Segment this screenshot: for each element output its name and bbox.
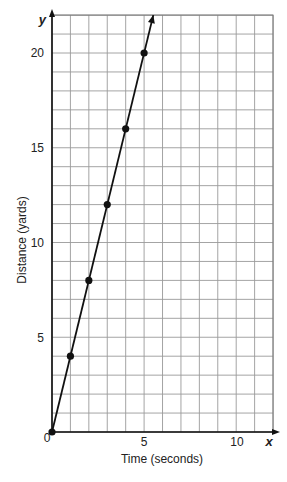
y-axis-label: Distance (yards)	[15, 196, 29, 283]
axes	[49, 9, 280, 435]
data-point	[104, 201, 111, 208]
data-point	[85, 277, 92, 284]
y-tick-20: 20	[31, 46, 45, 60]
x-axis-label: Time (seconds)	[121, 452, 203, 466]
data-point	[141, 49, 148, 56]
data-point	[122, 125, 129, 132]
y-axis-arrow-icon	[49, 9, 55, 17]
data-series	[48, 15, 154, 436]
x-axis-variable: x	[264, 434, 273, 449]
y-tick-10: 10	[31, 236, 45, 250]
x-tick-10: 10	[230, 435, 244, 449]
grid	[52, 15, 273, 432]
y-axis-variable: y	[38, 12, 47, 27]
y-tick-15: 15	[31, 141, 45, 155]
data-point	[67, 353, 74, 360]
x-tick-5: 5	[141, 435, 148, 449]
y-tick-5: 5	[37, 331, 44, 345]
x-axis-arrow-icon	[272, 429, 280, 435]
origin-label: 0	[44, 431, 51, 445]
distance-time-chart: 0 5 10 x 5 10 15 20 y Time (seconds) Dis…	[0, 0, 287, 482]
